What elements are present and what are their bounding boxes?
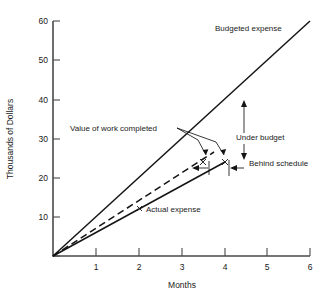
y-axis-title: Thousands of Dollars xyxy=(5,99,15,179)
marker-work-completed-at-month-4 xyxy=(222,159,228,165)
chart-container: 10 20 30 40 50 60 1 2 3 4 5 6 Months Tho… xyxy=(0,0,328,294)
annotation-value-of-work-completed: Value of work completed xyxy=(70,124,157,133)
chart-plot-area: 10 20 30 40 50 60 1 2 3 4 5 6 Months Tho… xyxy=(0,0,328,294)
leader-behind-schedule xyxy=(229,160,244,176)
y-tick-label-50: 50 xyxy=(39,55,49,65)
x-tick-label-2: 2 xyxy=(137,262,142,272)
annotation-behind-schedule-line1: Behind schedule xyxy=(249,159,309,168)
y-tick-label-40: 40 xyxy=(39,95,49,105)
x-axis-ticks xyxy=(96,248,310,256)
y-axis-ticks xyxy=(53,21,60,256)
x-tick-label-6: 6 xyxy=(308,262,313,272)
annotation-actual-expense: Actual expense xyxy=(146,205,201,214)
y-tick-label-10: 10 xyxy=(39,212,49,222)
x-tick-label-4: 4 xyxy=(223,262,228,272)
x-axis-title: Months xyxy=(168,280,196,290)
y-tick-label-20: 20 xyxy=(39,173,49,183)
annotation-under-budget: Under budget xyxy=(236,133,285,142)
series-line-actual-expense xyxy=(53,152,214,256)
x-tick-label-1: 1 xyxy=(94,262,99,272)
y-tick-label-30: 30 xyxy=(39,134,49,144)
x-tick-label-5: 5 xyxy=(265,262,270,272)
y-tick-label-60: 60 xyxy=(39,16,49,26)
leader-under-budget xyxy=(241,100,247,160)
x-tick-label-3: 3 xyxy=(180,262,185,272)
annotation-budgeted-expense: Budgeted expense xyxy=(215,24,282,33)
leader-value-of-work-completed xyxy=(177,128,226,155)
